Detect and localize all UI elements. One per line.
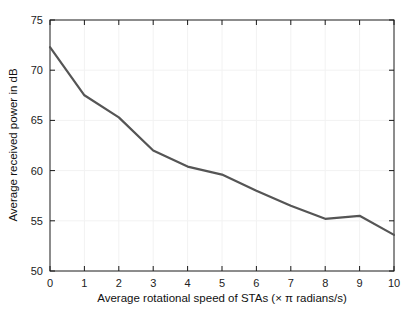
y-tick-label: 50 bbox=[31, 265, 43, 277]
chart-figure: 505560657075 012345678910 Average rotati… bbox=[0, 0, 413, 321]
x-tick-label: 7 bbox=[288, 277, 294, 289]
x-tick-label: 8 bbox=[322, 277, 328, 289]
x-tick-label: 2 bbox=[116, 277, 122, 289]
x-tick-label: 10 bbox=[388, 277, 400, 289]
y-axis-title: Average received power in dB bbox=[7, 68, 19, 222]
x-tick-label: 0 bbox=[47, 277, 53, 289]
x-tick-label: 9 bbox=[357, 277, 363, 289]
x-tick-label: 5 bbox=[219, 277, 225, 289]
x-axis-title: Average rotational speed of STAs (× π ra… bbox=[97, 292, 347, 304]
y-tick-label: 75 bbox=[31, 14, 43, 26]
x-tick-label: 3 bbox=[150, 277, 156, 289]
y-tick-label: 55 bbox=[31, 215, 43, 227]
y-tick-label: 65 bbox=[31, 114, 43, 126]
y-tick-label: 70 bbox=[31, 64, 43, 76]
x-tick-label: 6 bbox=[253, 277, 259, 289]
line-chart-canvas: 505560657075 012345678910 Average rotati… bbox=[0, 0, 413, 321]
y-tick-label: 60 bbox=[31, 165, 43, 177]
x-tick-label: 1 bbox=[81, 277, 87, 289]
x-tick-label: 4 bbox=[185, 277, 191, 289]
